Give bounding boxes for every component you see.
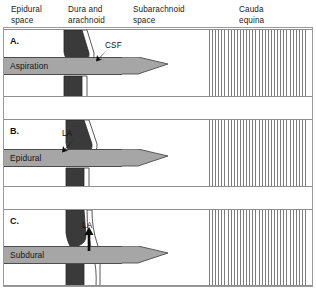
panel-b: B. Epidural LA — [4, 119, 312, 187]
cauda-equina-hatching-a — [209, 30, 307, 96]
cauda-equina-hatching-c — [209, 210, 307, 285]
diagram-frame: A. Aspiration — [3, 27, 313, 287]
panel-letter-a: A. — [10, 36, 19, 46]
column-header-dura-and-arachnoid: Dura and arachnoid — [68, 5, 105, 26]
column-header-cauda-equina: Cauda equina — [239, 5, 264, 26]
annotation-arrow-csf — [92, 48, 110, 62]
panel-letter-c: C. — [10, 216, 19, 226]
cauda-equina-hatching-b — [209, 120, 307, 186]
column-header-subarachnoid-space: Subarachnoid space — [133, 5, 185, 26]
annotation-arrow-la-c — [83, 227, 95, 251]
syringe-label-epidural: Epidural — [10, 153, 42, 163]
column-header-epidural-space: Epidural space — [11, 5, 42, 26]
panel-letter-b: B. — [10, 126, 19, 136]
annotation-arrow-la-b — [60, 138, 78, 154]
syringe-label-subdural: Subdural — [10, 250, 44, 260]
annotation-label-la-b: LA — [62, 129, 72, 138]
syringe-label-aspiration: Aspiration — [10, 61, 48, 71]
figure-root: Epidural space Dura and arachnoid Subara… — [0, 0, 316, 290]
panel-c: C. Subdural LA — [4, 209, 312, 286]
panel-a: A. Aspiration — [4, 29, 312, 97]
